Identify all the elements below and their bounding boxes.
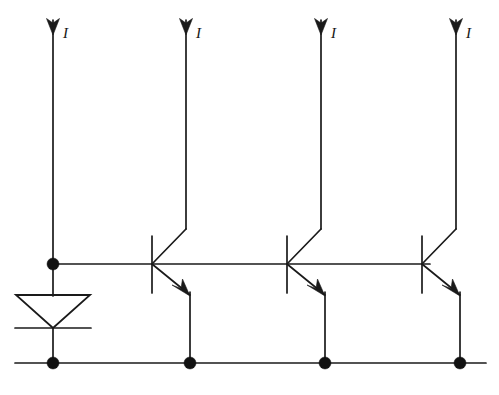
current-label-3: I bbox=[331, 26, 336, 41]
node-emitter-2-ground bbox=[319, 357, 331, 369]
reference-branch bbox=[15, 19, 91, 364]
node-reference-ground bbox=[47, 357, 59, 369]
current-label-2: I bbox=[196, 26, 201, 41]
node-emitter-3-ground bbox=[454, 357, 466, 369]
node-reference-base bbox=[47, 258, 59, 270]
output-branch-1 bbox=[152, 19, 193, 364]
output-branch-3 bbox=[422, 19, 463, 364]
output-branch-2 bbox=[287, 19, 328, 364]
circuit-schematic bbox=[0, 0, 499, 395]
current-label-4: I bbox=[466, 26, 471, 41]
diode-triangle bbox=[16, 295, 90, 328]
collector-diagonal-2 bbox=[287, 229, 321, 264]
collector-diagonal-3 bbox=[422, 229, 456, 264]
current-label-1: I bbox=[63, 26, 68, 41]
schematic-canvas: I I I I bbox=[0, 0, 499, 395]
collector-diagonal-1 bbox=[152, 229, 186, 264]
node-emitter-1-ground bbox=[184, 357, 196, 369]
